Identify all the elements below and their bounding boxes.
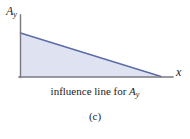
caption-variable-subscript: y	[136, 90, 140, 99]
part-label-text: (c)	[89, 110, 101, 122]
figure-part-label: (c)	[0, 110, 190, 122]
figure-caption: influence line for Ay	[0, 85, 190, 98]
influence-line-figure: Ay x influence line for Ay (c)	[0, 0, 190, 139]
x-axis-label: x	[176, 66, 181, 78]
caption-variable-symbol: A	[129, 85, 136, 97]
y-axis-label: Ay	[6, 5, 17, 17]
x-axis-label-symbol: x	[176, 65, 181, 79]
caption-prefix-text: influence line for	[51, 85, 130, 97]
y-axis-label-subscript: y	[13, 10, 17, 19]
